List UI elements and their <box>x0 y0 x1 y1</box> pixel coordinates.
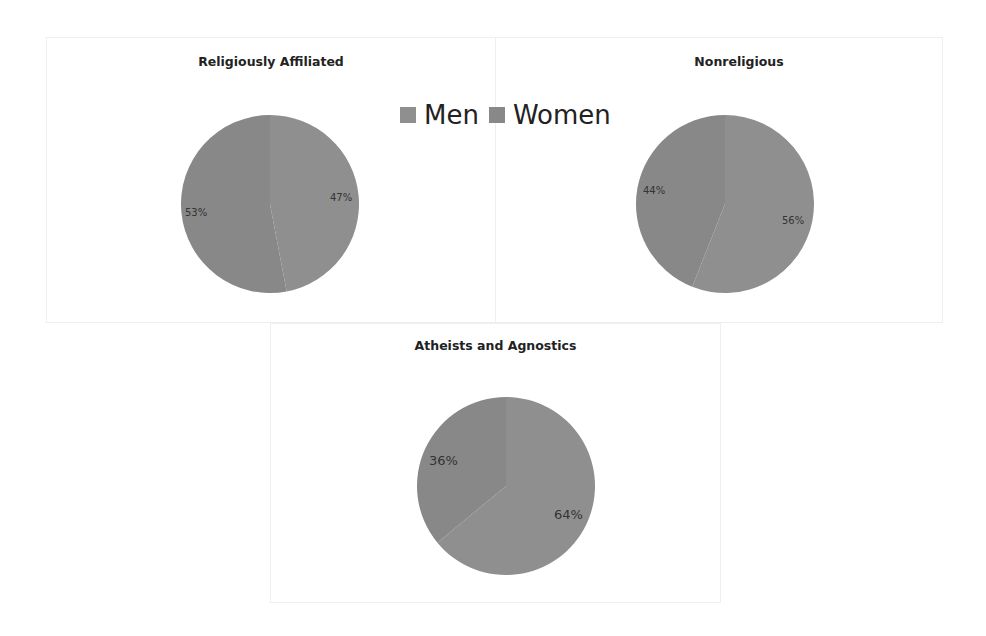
pie-slices <box>636 115 814 293</box>
data-label-women: 36% <box>429 453 458 468</box>
pie-chart-atheists-agnostics: 36% 64% <box>406 386 606 586</box>
legend-label: Men <box>424 100 479 130</box>
data-label-women: 53% <box>185 207 207 218</box>
data-label-men: 47% <box>330 192 352 203</box>
legend-item-men: Men <box>400 100 479 130</box>
pie-slices <box>417 397 595 575</box>
pie-chart-religiously-affiliated: 53% 47% <box>170 104 370 304</box>
pie-chart-nonreligious: 44% 56% <box>625 104 825 304</box>
chart-legend: Men Women <box>400 100 621 130</box>
chart-title: Atheists and Agnostics <box>271 338 720 353</box>
legend-swatch-women <box>489 107 505 123</box>
legend-swatch-men <box>400 107 416 123</box>
data-label-men: 56% <box>782 215 804 226</box>
chart-title: Nonreligious <box>536 54 942 69</box>
data-label-men: 64% <box>554 507 583 522</box>
data-label-women: 44% <box>643 185 665 196</box>
pie-slices <box>181 115 359 293</box>
legend-item-women: Women <box>489 100 611 130</box>
chart-title: Religiously Affiliated <box>47 54 495 69</box>
legend-label: Women <box>513 100 611 130</box>
pie-slice-men <box>270 115 359 291</box>
